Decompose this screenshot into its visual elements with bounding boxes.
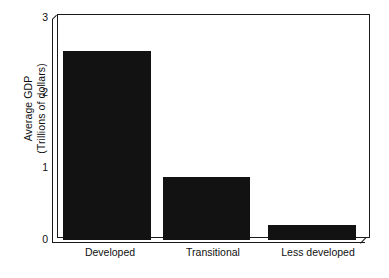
plot-area [57, 14, 372, 240]
bar-chart-figure: Average GDP (Trillions of dollars) 3 2 1… [0, 0, 389, 278]
x-tick-label-transitional: Transitional [186, 246, 240, 258]
y-axis-tick-labels: 3 2 1 0 [22, 0, 48, 278]
bar-developed [63, 51, 151, 240]
y-tick-label-0: 0 [26, 233, 48, 245]
bar-transitional [163, 177, 250, 240]
x-tick-label-developed: Developed [85, 246, 135, 258]
y-tick-label-3: 3 [26, 11, 48, 23]
x-tick-label-less-developed: Less developed [281, 246, 355, 258]
bar-series [57, 14, 372, 240]
y-tick-label-2: 2 [26, 86, 48, 98]
bar-less-developed [268, 225, 356, 240]
y-tick-label-1: 1 [26, 161, 48, 173]
x-axis-tick-labels: Developed Transitional Less developed [52, 246, 382, 264]
